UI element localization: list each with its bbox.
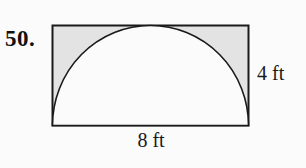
height-dimension-label: 4 ft <box>257 62 284 85</box>
figure-panel: 50. 4 ft 8 ft <box>0 0 306 168</box>
width-dimension-label: 8 ft <box>137 129 164 152</box>
